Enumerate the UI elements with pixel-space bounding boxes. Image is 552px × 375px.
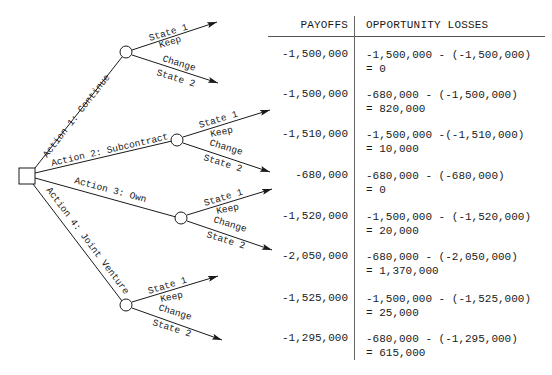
action-3-label: Action 3: Own: [73, 175, 147, 205]
action-2-label: Action 2: Subcontract: [50, 131, 169, 169]
action-4-branch: [33, 184, 122, 301]
chance-node-2: [171, 134, 183, 146]
chance-node-1: [120, 46, 132, 58]
chance-node-4: [120, 299, 132, 311]
action-4-label: Action 4: Joint Venture: [44, 185, 132, 297]
decision-tree: Action 1: Continue Action 2: Subcontract…: [0, 0, 552, 375]
chance-node-3: [175, 212, 187, 224]
decision-node-square: [19, 168, 35, 184]
